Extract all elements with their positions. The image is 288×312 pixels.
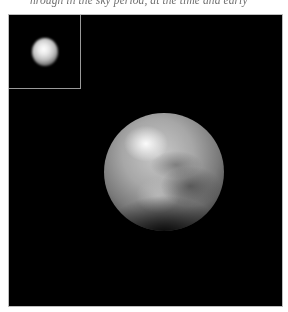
inset-image [9,15,81,89]
planet-terminator-shadow [104,113,224,231]
inset-dot [32,38,58,66]
page-text-fragment: hrough in the sky period, at the time an… [30,0,288,7]
image-panel [9,15,282,306]
